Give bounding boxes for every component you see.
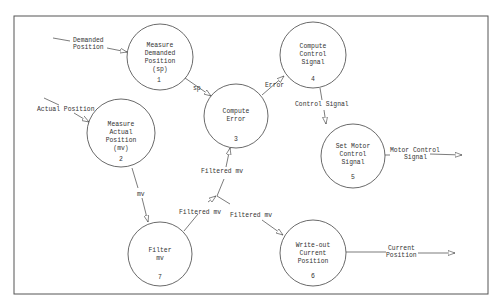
svg-text:Demanded: Demanded <box>145 50 176 57</box>
process-number: 6 <box>311 273 315 280</box>
flow-control-signal: Control Signal <box>295 88 349 124</box>
process-number: 5 <box>351 174 355 181</box>
flow-label: Filtered mv <box>230 212 272 219</box>
svg-text:Write-out: Write-out <box>296 242 331 249</box>
data-flow-diagram: Demanded Position Actual Position sp Err… <box>0 0 500 307</box>
flow-current-position: Current Position <box>346 245 455 259</box>
flow-demanded-position: Demanded Position <box>53 37 127 52</box>
flow-label: Filtered mv <box>201 168 243 175</box>
flow-label: Position <box>73 44 104 51</box>
flow-label: mv <box>137 191 145 198</box>
flow-label: Filtered mv <box>179 209 221 216</box>
process-filter-mv: Filter mv 7 <box>128 222 192 286</box>
flow-error: Error <box>262 76 284 95</box>
svg-text:Set Motor: Set Motor <box>336 143 371 150</box>
process-number: 3 <box>234 136 238 143</box>
flow-label: Current <box>388 245 415 252</box>
process-number: 2 <box>119 156 123 163</box>
flow-filtered-mv-to-junction: Filtered mv <box>179 196 221 231</box>
process-number: 7 <box>158 274 162 281</box>
svg-text:Measure: Measure <box>147 42 174 49</box>
svg-text:Current: Current <box>300 250 327 257</box>
flow-label: Signal <box>404 154 427 161</box>
svg-text:Control: Control <box>300 51 327 58</box>
flow-label: Demanded <box>73 37 104 44</box>
flow-filtered-mv-to-writeout: Filtered mv <box>217 196 283 235</box>
svg-text:Control: Control <box>340 151 367 158</box>
svg-text:Signal: Signal <box>301 59 324 66</box>
process-number: 1 <box>157 77 161 84</box>
svg-text:Actual: Actual <box>109 129 132 136</box>
svg-text:Compute: Compute <box>300 43 327 50</box>
svg-text:Error: Error <box>226 116 245 123</box>
svg-text:mv: mv <box>156 255 164 262</box>
flow-actual-position: Actual Position <box>37 98 95 122</box>
process-number: 4 <box>311 76 315 83</box>
flow-label: Error <box>265 82 284 89</box>
svg-text:Signal: Signal <box>341 159 364 166</box>
svg-text:Measure: Measure <box>108 121 135 128</box>
process-measure-actual-position: Measure Actual Position (mv) 2 <box>87 99 155 167</box>
flow-mv: mv <box>132 168 148 222</box>
process-set-motor-control-signal: Set Motor Control Signal 5 <box>321 124 385 188</box>
flow-label: Position <box>386 252 417 259</box>
flow-filtered-mv-to-error: Filtered mv <box>201 148 243 196</box>
flow-label: Motor Control <box>390 147 440 154</box>
flow-label: Control Signal <box>295 101 349 108</box>
process-write-out-current-position: Write-out Current Position 6 <box>280 220 346 286</box>
flow-label: sp <box>193 85 201 92</box>
svg-text:Position: Position <box>298 258 329 265</box>
process-measure-demanded-position: Measure Demanded Position (sp) 1 <box>127 24 193 90</box>
process-compute-control-signal: Compute Control Signal 4 <box>280 22 346 88</box>
flow-label: Actual Position <box>37 106 95 113</box>
svg-text:Compute: Compute <box>223 108 250 115</box>
svg-text:Position: Position <box>145 58 176 65</box>
process-compute-error: Compute Error 3 <box>204 84 268 148</box>
svg-text:Filter: Filter <box>148 247 171 254</box>
svg-text:(mv): (mv) <box>113 145 128 152</box>
svg-text:(sp): (sp) <box>152 66 167 73</box>
svg-text:Position: Position <box>106 137 137 144</box>
flow-motor-control-signal: Motor Control Signal <box>385 147 462 161</box>
flow-sp: sp <box>185 78 211 96</box>
